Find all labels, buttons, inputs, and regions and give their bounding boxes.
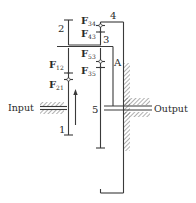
output-label: Output (154, 103, 188, 114)
label-arm-a: A (113, 57, 122, 68)
gear-1 (64, 48, 73, 135)
force-label-f34: F34 (81, 15, 96, 27)
label-gear-3: 3 (103, 34, 109, 45)
force-label-f43: F43 (81, 28, 96, 40)
force-label-f12: F12 (49, 59, 64, 71)
label-gear-4: 4 (110, 10, 116, 21)
force-label-f53: F53 (81, 48, 96, 60)
input-label: Input (8, 102, 34, 113)
gear-train-diagram: 2 3 4 1 5 A Input Output F34 F43 F53 F35… (0, 0, 196, 203)
rotation-arrow-icon (73, 89, 77, 125)
input-bearing (40, 102, 67, 114)
ground-wall (124, 63, 150, 151)
gear-4-ring (101, 22, 124, 193)
label-gear-5: 5 (92, 104, 98, 115)
label-gear-2: 2 (58, 23, 64, 34)
force-label-f35: F35 (81, 65, 96, 77)
label-gear-1: 1 (59, 124, 65, 135)
force-label-f21: F21 (49, 79, 64, 91)
